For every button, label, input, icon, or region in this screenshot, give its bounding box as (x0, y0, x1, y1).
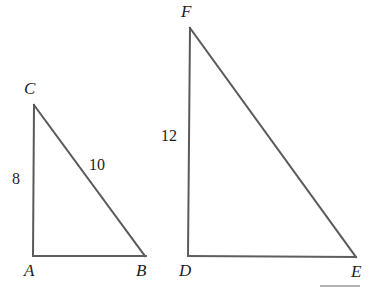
vertex-label-c: C (24, 80, 35, 97)
measure-label-df: 12 (161, 128, 177, 144)
hypotenuse-fe (190, 28, 356, 257)
vertex-label-f: F (181, 3, 191, 20)
measure-label-ac: 8 (12, 171, 20, 187)
leg-de (188, 256, 356, 257)
vertex-label-e: E (351, 263, 361, 280)
leg-df (188, 28, 190, 256)
vertex-label-a: A (24, 262, 34, 279)
triangle-def (188, 28, 356, 257)
geometry-figure: A B C D E F 8 10 12 (0, 0, 386, 291)
vertex-label-b: B (136, 262, 146, 279)
figure-canvas (0, 0, 386, 291)
leg-ac (33, 105, 34, 256)
hypotenuse-cb (34, 105, 145, 256)
triangle-abc (33, 105, 146, 256)
vertex-label-d: D (179, 262, 191, 279)
measure-label-cb: 10 (89, 157, 105, 173)
